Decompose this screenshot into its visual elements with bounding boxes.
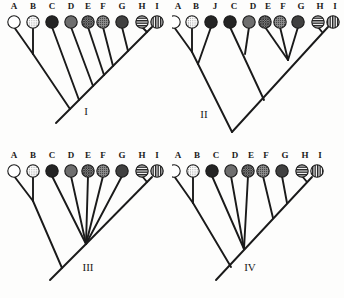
terminal-circle-I xyxy=(151,16,163,28)
terminal-circle-C xyxy=(46,165,58,177)
terminal-circle-I xyxy=(327,16,339,28)
terminal-circle-H xyxy=(136,16,148,28)
terminal-circle-J xyxy=(205,16,217,28)
terminal-circle-D xyxy=(225,165,237,177)
terminal-circle-G xyxy=(116,165,128,177)
terminal-circle-G xyxy=(276,165,288,177)
terminal-circle-F xyxy=(97,16,109,28)
terminal-circle-B xyxy=(27,16,39,28)
terminal-circle-A xyxy=(172,16,180,28)
terminal-circle-H xyxy=(136,165,148,177)
terminal-circle-D xyxy=(243,16,255,28)
panel-roman-numeral-I: I xyxy=(84,105,88,117)
terminal-circle-I xyxy=(311,165,323,177)
terminal-circle-C xyxy=(46,16,58,28)
panel-III-cladogram xyxy=(0,149,172,298)
panel-III-terminal-circles xyxy=(8,165,163,177)
terminal-circle-C xyxy=(224,16,236,28)
terminal-circle-D xyxy=(65,16,77,28)
panel-I-cladogram xyxy=(0,0,172,149)
terminal-circle-A xyxy=(172,165,180,177)
panel-IV-cladogram xyxy=(172,149,344,298)
panel-IV-branches xyxy=(174,176,312,280)
panel-roman-numeral-II: II xyxy=(200,108,207,120)
panel-roman-numeral-III: III xyxy=(83,261,94,273)
panel-I-branches xyxy=(14,27,152,123)
terminal-circle-D xyxy=(65,165,77,177)
terminal-circle-A xyxy=(8,16,20,28)
terminal-circle-B xyxy=(187,165,199,177)
terminal-circle-F xyxy=(97,165,109,177)
phylogenetic-tree-figure: A B C D E F G H I xyxy=(0,0,344,298)
terminal-circle-I xyxy=(151,165,163,177)
terminal-circle-E xyxy=(259,16,271,28)
terminal-circle-G xyxy=(116,16,128,28)
panel-III: A B C D E F G H I xyxy=(0,149,172,298)
terminal-circle-E xyxy=(82,16,94,28)
terminal-circle-C xyxy=(206,165,218,177)
panel-II: A B J C D E F G H I xyxy=(172,0,344,149)
panel-II-terminal-circles xyxy=(172,16,339,28)
terminal-circle-H xyxy=(312,16,324,28)
terminal-circle-F xyxy=(274,16,286,28)
terminal-circle-H xyxy=(296,165,308,177)
panel-I-terminal-circles xyxy=(8,16,163,28)
terminal-circle-B xyxy=(27,165,39,177)
panel-II-cladogram xyxy=(172,0,344,149)
terminal-circle-E xyxy=(242,165,254,177)
terminal-circle-B xyxy=(186,16,198,28)
panel-I: A B C D E F G H I xyxy=(0,0,172,149)
panel-roman-numeral-IV: IV xyxy=(244,261,256,273)
terminal-circle-E xyxy=(82,165,94,177)
terminal-circle-F xyxy=(257,165,269,177)
panel-IV: A B C D E F G H I xyxy=(172,149,344,298)
panel-II-branches xyxy=(174,27,328,132)
panel-IV-terminal-circles xyxy=(172,165,323,177)
terminal-circle-G xyxy=(292,16,304,28)
terminal-circle-A xyxy=(8,165,20,177)
